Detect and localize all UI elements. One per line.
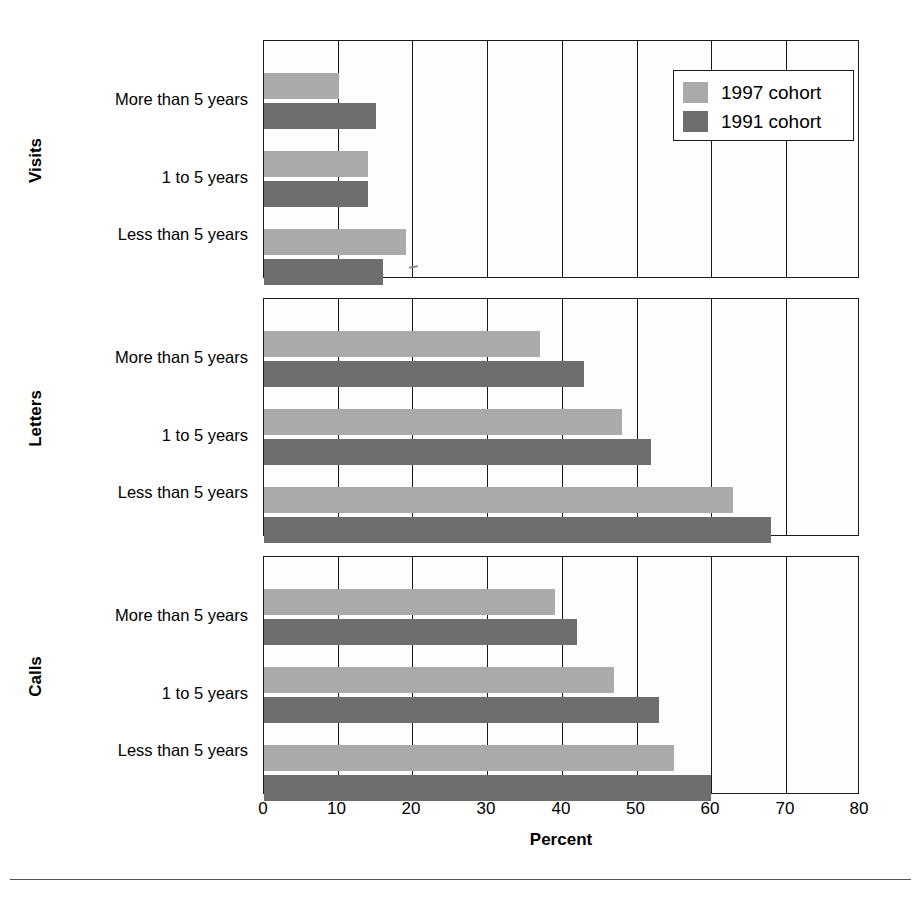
xtick-60: 60 [690,800,730,817]
cat-label-calls-1to5: 1 to 5 years [33,685,248,702]
xtick-0: 0 [243,800,283,817]
gridline-30 [487,41,488,277]
bar-visits-more-1991 [264,103,376,129]
cat-label-calls-less: Less than 5 years [33,742,248,759]
bar-calls-less-1997 [264,745,674,771]
bar-calls-more-1997 [264,589,555,615]
panel-calls [263,556,859,794]
bar-letters-1to5-1997 [264,409,622,435]
bar-calls-more-1991 [264,619,577,645]
bar-visits-less-1991 [264,259,383,285]
footer-divider [10,879,911,880]
x-axis-title: Percent [461,831,661,848]
cat-label-visits-more: More than 5 years [33,91,248,108]
legend-swatch-1997-icon [683,82,708,103]
xtick-20: 20 [391,800,431,817]
xtick-10: 10 [317,800,357,817]
bar-calls-1to5-1991 [264,697,659,723]
gridline-20 [412,41,413,277]
gridline-70 [786,557,787,793]
plot-area-letters [264,299,858,535]
cat-label-letters-1to5: 1 to 5 years [33,427,248,444]
bar-letters-less-1991 [264,517,771,543]
xtick-40: 40 [541,800,581,817]
plot-area-calls [264,557,858,793]
legend-item-1991: 1991 cohort [683,107,839,136]
stray-mark [409,265,418,269]
bar-letters-less-1997 [264,487,733,513]
bar-calls-1to5-1997 [264,667,614,693]
bar-calls-less-1991 [264,775,711,801]
gridline-40 [562,41,563,277]
chart-figure: More than 5 years 1 to 5 years Less than… [0,0,923,900]
legend: 1997 cohort 1991 cohort [673,70,854,141]
cat-label-letters-more: More than 5 years [33,349,248,366]
xtick-70: 70 [765,800,805,817]
group-title-letters: Letters [27,359,44,479]
group-title-calls: Calls [27,617,44,737]
legend-label-1997: 1997 cohort [721,83,821,102]
gridline-70 [786,299,787,535]
cat-label-visits-1to5: 1 to 5 years [33,169,248,186]
bar-visits-1to5-1997 [264,151,368,177]
legend-label-1991: 1991 cohort [721,112,821,131]
bar-visits-less-1997 [264,229,406,255]
legend-item-1997: 1997 cohort [683,78,839,107]
gridline-50 [637,41,638,277]
gridline-60 [711,557,712,793]
cat-label-letters-less: Less than 5 years [33,484,248,501]
cat-label-calls-more: More than 5 years [33,607,248,624]
bar-letters-1to5-1991 [264,439,651,465]
bar-visits-more-1997 [264,73,339,99]
bar-letters-more-1997 [264,331,540,357]
xtick-50: 50 [616,800,656,817]
xtick-30: 30 [466,800,506,817]
legend-swatch-1991-icon [683,111,708,132]
bar-visits-1to5-1991 [264,181,368,207]
bar-letters-more-1991 [264,361,584,387]
cat-label-visits-less: Less than 5 years [33,226,248,243]
xtick-80: 80 [839,800,879,817]
group-title-visits: Visits [27,101,44,221]
panel-letters [263,298,859,536]
